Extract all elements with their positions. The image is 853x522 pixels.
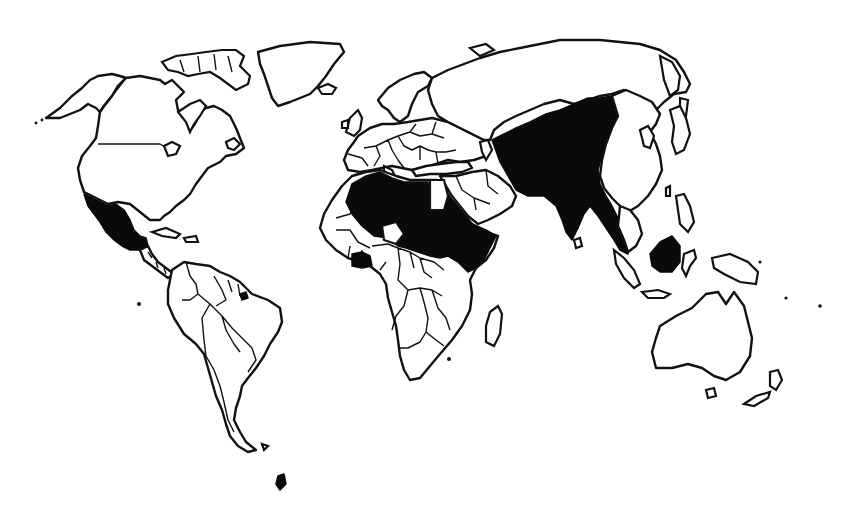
aleutian-dot [35, 122, 38, 125]
tasmania [706, 388, 716, 398]
falklands [262, 444, 268, 450]
cuba [152, 228, 180, 238]
sri-lanka [574, 238, 582, 248]
ireland [342, 120, 348, 128]
island-dot [818, 304, 822, 308]
south-georgia [276, 474, 286, 490]
sulawesi [682, 250, 696, 276]
philippines [676, 194, 694, 232]
iceland [318, 84, 336, 94]
hispaniola [184, 236, 198, 242]
australia [652, 292, 752, 380]
south-america-outline [168, 262, 282, 452]
new-guinea [712, 254, 758, 284]
aleutian-dot [41, 119, 44, 122]
island-dot [758, 260, 761, 263]
world-map [0, 0, 853, 522]
new-zealand-south [744, 392, 770, 406]
central-america [140, 246, 174, 278]
island-dot [784, 296, 787, 299]
region-borneo [650, 236, 680, 272]
egypt [430, 180, 448, 210]
sumatra [614, 250, 640, 288]
greenland [258, 42, 344, 106]
galapagos-dot [137, 302, 141, 306]
java [642, 290, 670, 298]
new-zealand-north [770, 370, 782, 390]
south-america [137, 262, 286, 490]
taiwan [666, 186, 670, 196]
madagascar [486, 306, 502, 346]
lesotho-dot [447, 357, 451, 361]
french-guiana-dot [240, 292, 248, 300]
scandinavia [378, 72, 432, 122]
north-america [35, 42, 344, 220]
